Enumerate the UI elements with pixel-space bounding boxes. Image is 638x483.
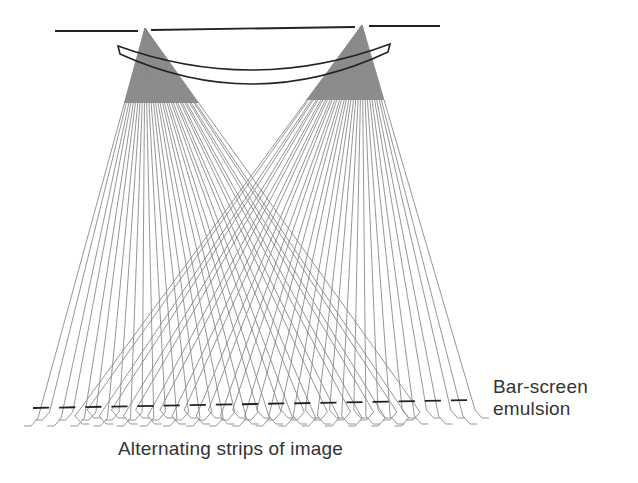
ray-strip-edge <box>414 416 421 424</box>
light-ray <box>84 28 145 418</box>
ray-strip-edge <box>228 412 235 420</box>
ray-strip-edge <box>274 412 281 420</box>
ray-strip-edge <box>263 418 270 426</box>
ray-strip-edge <box>251 412 258 420</box>
ray-strip-edge <box>112 412 119 420</box>
ray-strip-edge <box>239 418 246 426</box>
light-ray <box>145 28 304 412</box>
ray-strip-edge <box>158 412 165 420</box>
ray-strip-edge <box>309 418 316 426</box>
light-ray <box>233 25 362 410</box>
ray-strip-edge <box>66 412 73 420</box>
ray-strip-edge <box>43 412 50 420</box>
alternating-strips-label: Alternating strips of image <box>118 438 343 460</box>
ray-strip-edge <box>124 418 131 426</box>
ray-strip-edge <box>320 412 327 420</box>
aperture-plane <box>55 26 440 31</box>
light-ray <box>107 28 145 418</box>
ray-strip-edge <box>305 410 312 418</box>
ray-strip-edge <box>451 410 458 418</box>
light-ray <box>196 25 362 416</box>
aperture-plane-segment <box>151 27 355 30</box>
ray-strip-edge <box>463 416 470 424</box>
ray-strip-edge <box>475 410 482 418</box>
ray-strip-edge <box>390 412 397 420</box>
ray-strip-edge <box>31 418 38 426</box>
light-ray <box>38 28 145 418</box>
ray-strip-edge <box>281 410 288 418</box>
ray-strip-edge <box>75 416 82 424</box>
light-ray <box>362 25 427 410</box>
ray-strip-edge <box>216 418 223 426</box>
light-ray <box>145 28 246 418</box>
light-ray <box>145 28 281 412</box>
ray-strip-edge <box>439 416 446 424</box>
ray-strip-edge <box>390 416 397 424</box>
light-ray <box>145 28 235 412</box>
light-ray <box>73 28 145 412</box>
ray-strip-edge <box>257 410 264 418</box>
light-ray <box>50 28 145 412</box>
ray-strip-edge <box>54 418 61 426</box>
light-ray <box>75 25 362 416</box>
ray-strip-edge <box>401 418 408 426</box>
ray-strip-edge <box>87 410 94 418</box>
emulsion-label-line1: Bar-screen <box>493 376 588 398</box>
bar-screen-emulsion-label: Bar-screen emulsion <box>493 376 588 420</box>
emulsion-label-line2: emulsion <box>493 398 588 420</box>
ray-strip-edge <box>184 410 191 418</box>
ray-strip-edge <box>170 418 177 426</box>
ray-strip-edge <box>378 418 385 426</box>
light-ray <box>362 25 402 410</box>
light-ray <box>362 25 475 410</box>
light-ray <box>362 25 439 416</box>
ray-strip-edge <box>286 418 293 426</box>
ray-strip-edge <box>332 418 339 426</box>
ray-strip-edge <box>367 412 374 420</box>
ray-strip-edge <box>402 410 409 418</box>
ray-strip-edge <box>136 410 143 418</box>
light-ray <box>362 25 463 416</box>
ray-strip-edge <box>355 418 362 426</box>
ray-strip-edge <box>297 412 304 420</box>
light-ray <box>145 28 339 418</box>
ray-strip-edge <box>427 410 434 418</box>
light-ray <box>160 25 362 410</box>
